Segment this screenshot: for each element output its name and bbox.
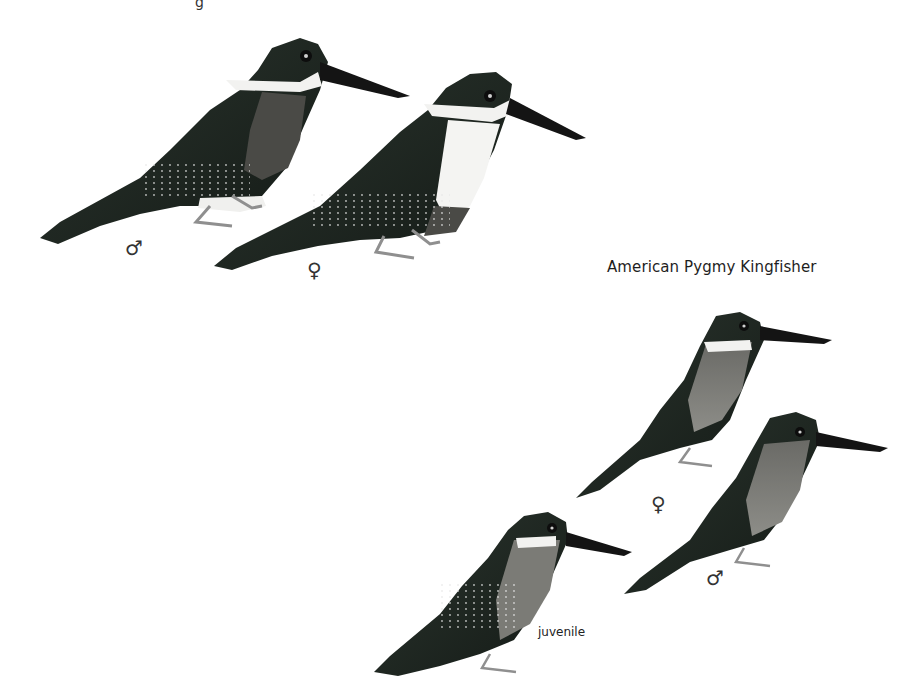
bird-illustrations [0, 0, 908, 687]
species-title: American Pygmy Kingfisher [607, 258, 817, 276]
male-symbol-pygmy: ♂ [706, 566, 724, 590]
male-symbol-large: ♂ [125, 236, 143, 260]
female-symbol-pygmy: ♀ [651, 492, 666, 516]
female-symbol-large: ♀ [307, 258, 322, 282]
juvenile-label: juvenile [538, 625, 585, 639]
bird-pygmy-juvenile [374, 512, 632, 676]
cropped-heading-fragment: g [195, 0, 204, 10]
field-guide-plate: g American Pygmy Kingfisher ♂ ♀ ♀ ♂ juve… [0, 0, 908, 687]
